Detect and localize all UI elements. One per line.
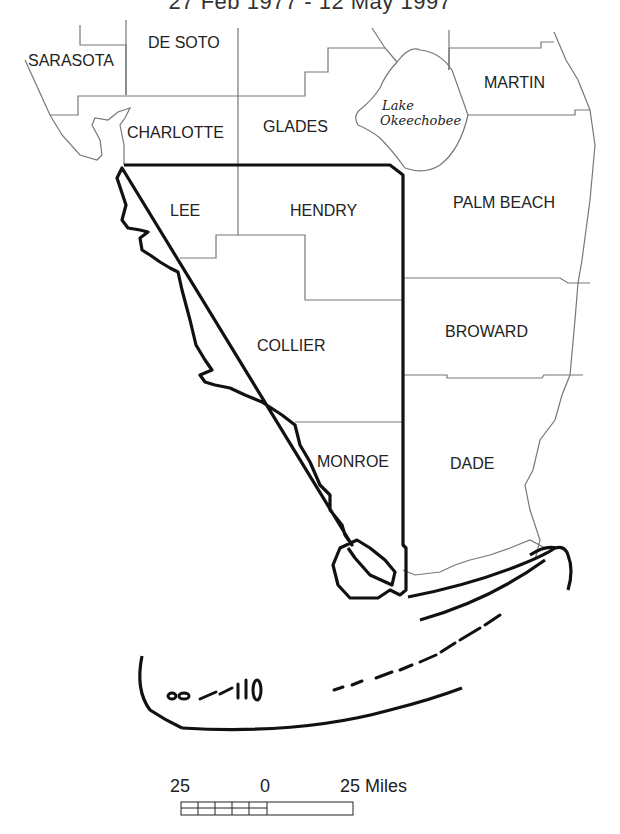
lake-label-line2: Okeechobee [380,113,461,128]
scale-bar [181,802,353,815]
county-label-lee: LEE [170,202,200,220]
county-label-sarasota: SARASOTA [28,52,114,70]
county-label-martin: MARTIN [484,74,545,92]
scale-label-right: 25 Miles [340,776,407,797]
county-label-desoto: DE SOTO [148,34,220,52]
lake-label-line1: Lake [382,98,461,113]
county-label-monroe: MONROE [317,453,389,471]
scale-label-left: 25 [170,776,190,797]
florida-keys [168,615,500,700]
county-label-broward: BROWARD [445,323,528,341]
lake-okeechobee-label: Lake Okeechobee [382,98,461,128]
county-label-glades: GLADES [263,118,328,136]
county-borders [25,20,595,575]
scale-label-center: 0 [260,776,270,797]
county-label-collier: COLLIER [257,337,325,355]
county-label-dade: DADE [450,455,494,473]
county-label-charlotte: CHARLOTTE [127,124,224,142]
county-label-palm-beach: PALM BEACH [453,194,555,212]
county-label-hendry: HENDRY [290,202,357,220]
study-area-outline [117,165,571,730]
